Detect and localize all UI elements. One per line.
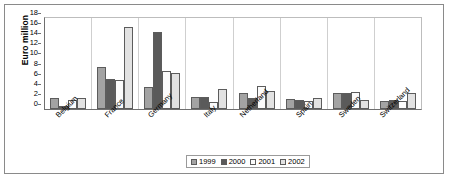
y-axis-tick-label: 16 — [6, 19, 38, 27]
y-axis-tick-mark — [38, 104, 41, 105]
y-axis-tick-mark — [38, 33, 41, 34]
y-axis-tick-mark — [38, 74, 41, 75]
y-axis-tick-mark — [38, 53, 41, 54]
y-axis-tick-label: 2 — [6, 90, 38, 98]
x-axis-label-slot: Netherland — [233, 111, 280, 153]
legend-label: 1999 — [199, 158, 216, 166]
legend-item[interactable]: 2002 — [280, 158, 305, 166]
bar-group — [328, 18, 375, 109]
y-axis-tick-label: 14 — [6, 29, 38, 37]
x-axis-label-slot: Italy — [186, 111, 233, 153]
bar-group — [92, 18, 139, 109]
bar[interactable] — [97, 67, 106, 109]
legend-swatch-icon — [250, 159, 256, 165]
plot-area — [44, 17, 422, 110]
bar[interactable] — [313, 98, 322, 109]
x-axis-label-slot: Sweden — [328, 111, 375, 153]
bar[interactable] — [407, 93, 416, 109]
bar[interactable] — [333, 93, 342, 109]
y-axis-tick-label: 10 — [6, 49, 38, 57]
legend-label: 2001 — [258, 158, 275, 166]
legend-swatch-icon — [221, 159, 227, 165]
y-axis-tick-mark — [38, 13, 41, 14]
bar-group — [281, 18, 328, 109]
bar[interactable] — [191, 97, 200, 109]
legend-swatch-icon — [280, 159, 286, 165]
y-axis-tick-mark — [38, 43, 41, 44]
bar-group — [45, 18, 92, 109]
chart-legend: 1999200020012002 — [186, 155, 310, 168]
bar[interactable] — [286, 99, 295, 109]
x-axis-label-slot: France — [91, 111, 138, 153]
y-axis-ticks: 024681012141618 — [5, 13, 41, 111]
y-axis-tick-label: 0 — [6, 100, 38, 108]
y-axis-tick-label: 6 — [6, 70, 38, 78]
legend-item[interactable]: 2000 — [221, 158, 246, 166]
bar[interactable] — [124, 27, 133, 109]
x-axis-label-slot: Belgium — [44, 111, 91, 153]
bar-group — [186, 18, 233, 109]
x-axis-label-slot: Switzerland — [375, 111, 422, 153]
y-axis-tick-label: 18 — [6, 9, 38, 17]
chart-container: Euro million 024681012141618 BelgiumFran… — [4, 4, 444, 174]
legend-label: 2000 — [229, 158, 246, 166]
y-axis-tick-mark — [38, 23, 41, 24]
bar-groups — [45, 18, 421, 109]
y-axis-tick-label: 12 — [6, 39, 38, 47]
bar[interactable] — [171, 73, 180, 109]
legend-item[interactable]: 1999 — [191, 158, 216, 166]
x-axis-label-slot: Spain — [280, 111, 327, 153]
y-axis-tick-mark — [38, 94, 41, 95]
legend-swatch-icon — [191, 159, 197, 165]
bar[interactable] — [218, 89, 227, 109]
legend-item[interactable]: 2001 — [250, 158, 275, 166]
y-axis-tick-mark — [38, 84, 41, 85]
y-axis-tick-label: 8 — [6, 60, 38, 68]
y-axis-tick-mark — [38, 64, 41, 65]
y-axis-tick-label: 4 — [6, 80, 38, 88]
legend-label: 2002 — [288, 158, 305, 166]
x-axis-labels: BelgiumFranceGermanyItalyNetherlandSpain… — [44, 111, 422, 153]
x-axis-label-slot: Germany — [139, 111, 186, 153]
